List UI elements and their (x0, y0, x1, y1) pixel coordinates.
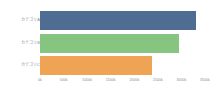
x-tick-label: 1000k (82, 79, 92, 83)
category-label-2: カテゴリC (21, 63, 40, 67)
x-tick-label: 3500k (200, 79, 210, 83)
category-label-0: カテゴリA (21, 18, 40, 22)
bar-row: カテゴリA (0, 11, 214, 30)
x-tick-label: 2000k (129, 79, 139, 83)
bar-category-b[interactable] (40, 34, 179, 53)
x-tick-label: 500k (60, 79, 68, 83)
bar-row: カテゴリB (0, 34, 214, 53)
bar-chart: カテゴリA カテゴリB カテゴリC 0k500k1000k1500k2000k2… (0, 0, 214, 91)
category-label-1: カテゴリB (21, 41, 40, 45)
x-tick-label: 3000k (177, 79, 187, 83)
x-tick-label: 1500k (106, 79, 116, 83)
x-tick-label: 2500k (153, 79, 163, 83)
x-tick-label: 0k (38, 79, 42, 83)
bar-category-c[interactable] (40, 56, 152, 75)
x-axis: 0k500k1000k1500k2000k2500k3000k3500k (0, 79, 214, 87)
bar-category-a[interactable] (40, 11, 196, 30)
bar-row: カテゴリC (0, 56, 214, 75)
plot-area: カテゴリA カテゴリB カテゴリC 0k500k1000k1500k2000k2… (0, 0, 214, 91)
